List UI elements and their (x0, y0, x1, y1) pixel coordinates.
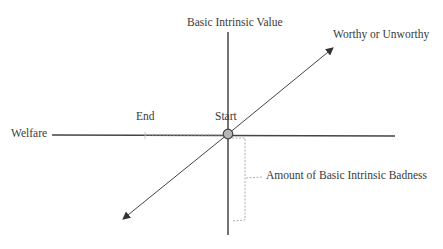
vertical-axis-label: Basic Intrinsic Value (187, 16, 283, 28)
end-label: End (136, 110, 155, 122)
badness-bracket (232, 138, 245, 221)
diagonal-axis-label: Worthy or Unworthy (333, 28, 429, 40)
worthy-unworthy-axis (228, 48, 333, 134)
bracket-leader (246, 177, 262, 178)
worthy-unworthy-axis-lower (123, 134, 228, 219)
start-point (223, 129, 233, 139)
horizontal-axis-label: Welfare (11, 127, 47, 139)
badness-label: Amount of Basic Intrinsic Badness (266, 169, 427, 181)
start-label: Start (215, 110, 237, 122)
